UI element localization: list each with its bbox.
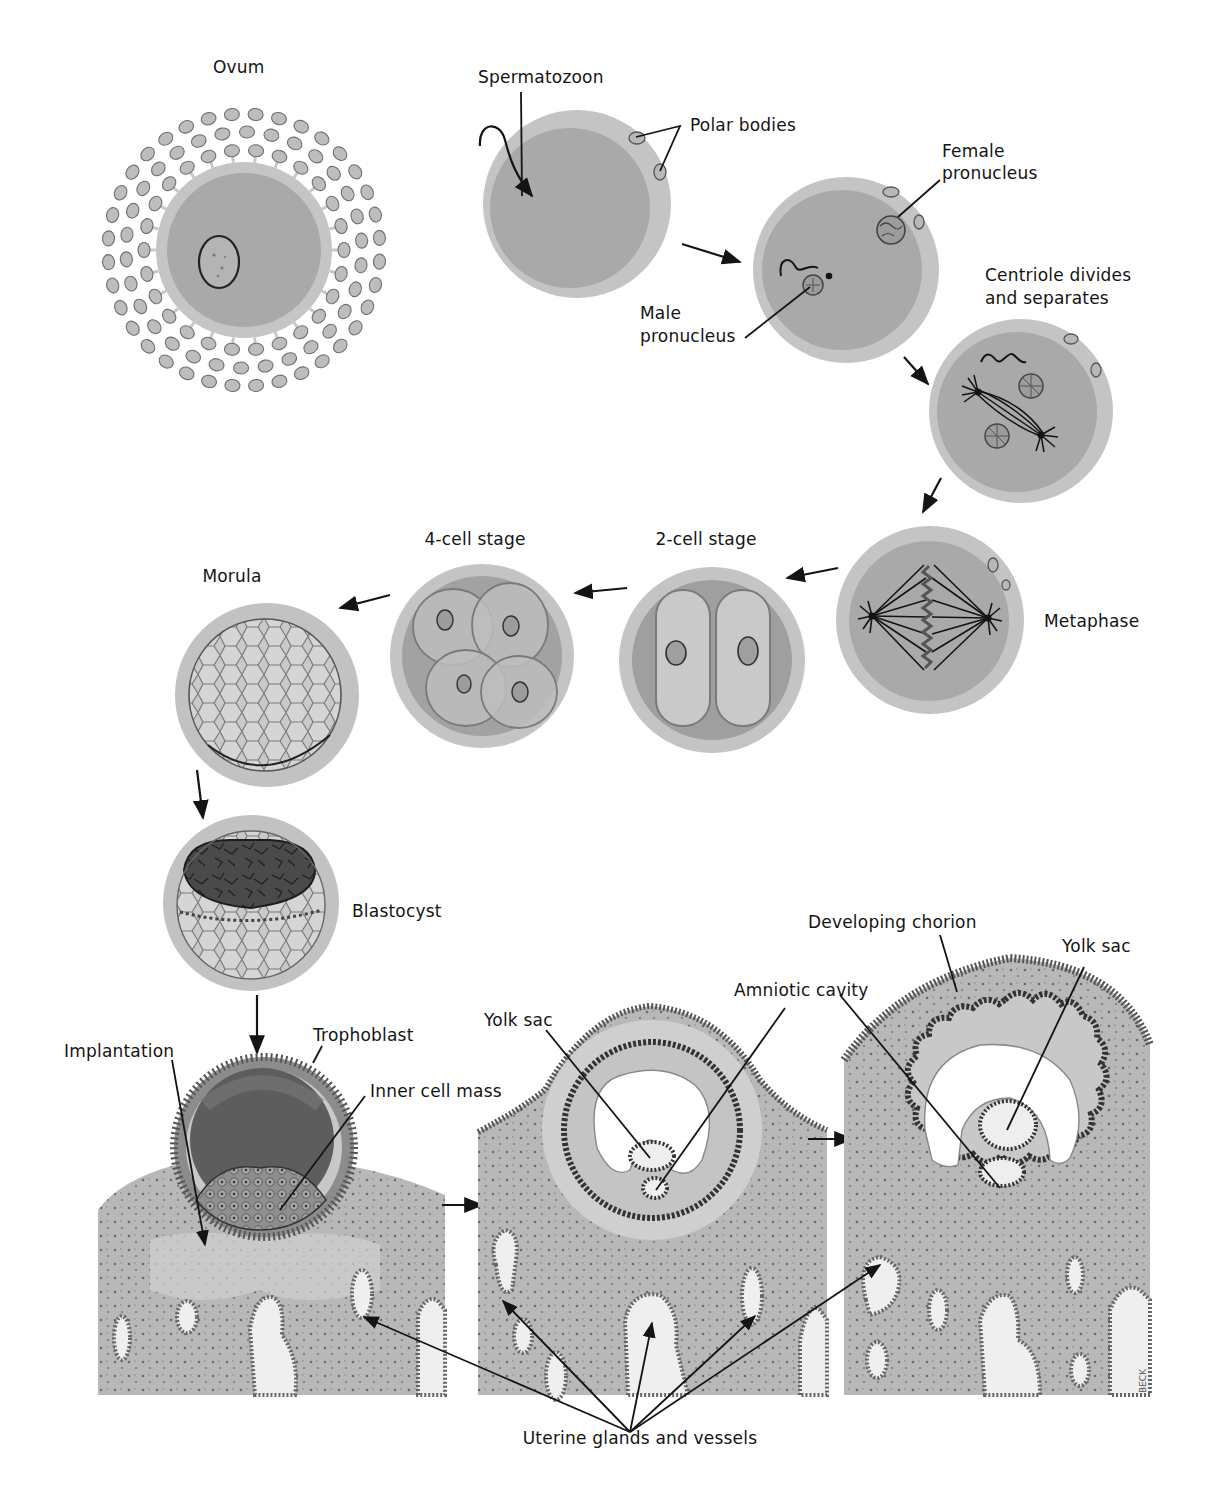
- label-female-pronucleus-1: Female: [942, 141, 1005, 162]
- arrow-icon: [682, 244, 740, 262]
- label-amniotic-cavity: Amniotic cavity: [734, 980, 869, 1001]
- arrow-icon: [787, 568, 838, 578]
- arrow-icon: [575, 588, 627, 593]
- fertilization-illustration: [480, 92, 680, 298]
- label-female-pronucleus-2: pronucleus: [942, 163, 1038, 184]
- label-two-cell: 2-cell stage: [655, 529, 756, 550]
- blastocyst-illustration: [163, 815, 339, 991]
- spermatozoon-leader: [521, 92, 522, 196]
- label-metaphase: Metaphase: [1044, 611, 1139, 632]
- four-cell-illustration: [390, 564, 574, 748]
- ovum-illustration: [102, 108, 386, 392]
- artist-signature: BECK: [1138, 1369, 1148, 1393]
- centriole-illustration: [929, 319, 1113, 503]
- label-ovum: Ovum: [213, 57, 265, 78]
- arrow-icon: [340, 595, 390, 608]
- label-four-cell: 4-cell stage: [424, 529, 525, 550]
- label-centriole-1: Centriole divides: [985, 265, 1131, 286]
- trophoblast-leader: [313, 1046, 322, 1063]
- label-centriole-2: and separates: [985, 288, 1109, 309]
- morula-illustration: [175, 603, 359, 787]
- label-uterine-glands: Uterine glands and vessels: [523, 1428, 758, 1449]
- label-yolk-sac-1: Yolk sac: [484, 1010, 553, 1031]
- metaphase-illustration: [836, 526, 1024, 714]
- label-developing-chorion: Developing chorion: [808, 912, 977, 933]
- label-morula: Morula: [202, 566, 261, 587]
- arrow-icon: [197, 770, 203, 818]
- label-trophoblast: Trophoblast: [313, 1025, 414, 1046]
- early-embryo-illustration: [478, 1006, 827, 1400]
- embryo-development-diagram: [0, 0, 1223, 1499]
- label-blastocyst: Blastocyst: [352, 901, 442, 922]
- label-polar-bodies: Polar bodies: [690, 115, 796, 136]
- label-implantation: Implantation: [64, 1041, 174, 1062]
- female-pronucleus: [877, 216, 905, 244]
- arrow-icon: [904, 357, 928, 384]
- label-yolk-sac-2: Yolk sac: [1062, 936, 1131, 957]
- ovum-nucleus: [199, 236, 239, 288]
- pronuclei-illustration: [745, 177, 940, 363]
- label-spermatozoon: Spermatozoon: [478, 67, 604, 88]
- label-male-pronucleus-2: pronucleus: [640, 326, 736, 347]
- label-inner-cell-mass: Inner cell mass: [370, 1081, 502, 1102]
- chorion-illustration: [840, 935, 1150, 1395]
- two-cell-illustration: [619, 567, 805, 753]
- arrow-icon: [923, 478, 941, 512]
- label-male-pronucleus-1: Male: [640, 303, 681, 324]
